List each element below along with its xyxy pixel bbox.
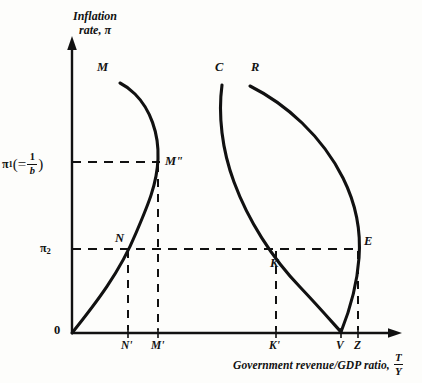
diagram-canvas bbox=[0, 0, 422, 383]
fraction-numerator: T bbox=[395, 352, 402, 364]
y-axis-title: Inflation rate, π bbox=[47, 9, 143, 37]
x-tick-label-z: Z bbox=[354, 340, 361, 352]
x-tick-label-k-prime: K' bbox=[269, 340, 280, 352]
point-label-m-double-prime: Mʺ bbox=[165, 155, 183, 168]
x-tick-label-v: V bbox=[336, 340, 344, 352]
fraction-denominator: b bbox=[30, 165, 35, 177]
x-tick-label-n-prime: N' bbox=[121, 340, 133, 352]
y-axis-title-line2: rate, π bbox=[47, 23, 143, 37]
pi2-symbol: π bbox=[40, 241, 47, 255]
pi1-open-paren: (= bbox=[13, 156, 26, 173]
point-label-n: N bbox=[115, 232, 124, 245]
point-label-e: E bbox=[364, 235, 372, 248]
fraction-numerator: 1 bbox=[30, 152, 35, 164]
pi1-symbol: π bbox=[2, 157, 9, 172]
x-axis-title: Government revenue/GDP ratio, T Y bbox=[233, 352, 404, 377]
curve-r bbox=[250, 86, 359, 332]
x-axis-arrowhead bbox=[388, 328, 402, 338]
t-over-y-fraction: T Y bbox=[394, 352, 403, 377]
dashed-drop-lines bbox=[128, 164, 358, 330]
curve-label-r: R bbox=[251, 61, 259, 74]
origin-label: 0 bbox=[54, 324, 60, 337]
one-over-b-fraction: 1 b bbox=[27, 152, 37, 176]
inflation-revenue-diagram: Inflation rate, π π1(= 1 b ) π2 0 N' M' … bbox=[0, 0, 422, 383]
curve-m bbox=[72, 83, 158, 333]
pi1-close-paren: ) bbox=[38, 156, 43, 173]
x-tick-label-m-prime: M' bbox=[151, 340, 164, 352]
curve-label-c: C bbox=[215, 61, 223, 74]
y-tick-label-pi2: π2 bbox=[40, 241, 51, 256]
x-axis-title-text: Government revenue/GDP ratio, bbox=[233, 359, 390, 371]
y-axis-arrowhead bbox=[67, 36, 77, 50]
pi2-subscript: 2 bbox=[47, 246, 51, 256]
curve-c bbox=[221, 85, 342, 332]
fraction-denominator: Y bbox=[395, 365, 402, 377]
curve-label-m: M bbox=[97, 61, 108, 74]
y-axis-title-line1: Inflation bbox=[47, 9, 143, 23]
point-label-k: K bbox=[270, 257, 278, 270]
y-tick-label-pi1: π1(= 1 b ) bbox=[2, 152, 43, 176]
